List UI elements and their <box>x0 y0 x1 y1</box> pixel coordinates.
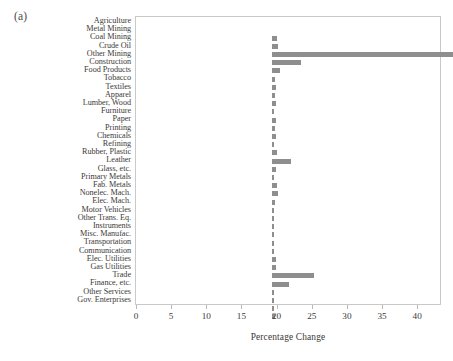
bar <box>272 232 274 237</box>
bars-layer <box>272 34 453 321</box>
x-axis: 0510152025303540 <box>135 305 441 306</box>
bar <box>272 257 276 262</box>
bar <box>272 52 453 57</box>
x-tick <box>347 305 348 309</box>
bar <box>272 68 280 73</box>
bar <box>272 224 274 229</box>
bar <box>272 273 314 278</box>
bar <box>272 298 274 303</box>
x-tick-label: 5 <box>169 311 174 321</box>
bar <box>272 101 276 106</box>
bar <box>272 142 274 147</box>
bar <box>272 159 291 164</box>
bar <box>272 44 278 49</box>
plot-frame <box>135 16 441 305</box>
x-tick <box>417 305 418 309</box>
bar <box>272 167 276 172</box>
bar <box>272 200 275 205</box>
x-axis-title: Percentage Change <box>135 332 441 342</box>
x-tick <box>136 305 137 309</box>
x-tick-label: 20 <box>272 311 281 321</box>
bar <box>272 150 277 155</box>
bar <box>272 290 274 295</box>
bar <box>272 126 275 131</box>
figure-panel-a: (a) AgricultureMetal MiningCoal MiningCr… <box>0 0 453 361</box>
bar <box>272 118 276 123</box>
x-tick <box>171 305 172 309</box>
bar <box>272 241 274 246</box>
x-tick-label: 30 <box>342 311 351 321</box>
bar <box>272 85 276 90</box>
bar <box>272 216 274 221</box>
x-tick <box>277 305 278 309</box>
bar <box>272 208 274 213</box>
bar <box>272 60 301 65</box>
x-tick <box>241 305 242 309</box>
bar <box>272 282 289 287</box>
bar <box>272 175 274 180</box>
bar <box>272 183 277 188</box>
bar <box>272 249 274 254</box>
x-tick <box>312 305 313 309</box>
bar <box>272 265 276 270</box>
x-tick <box>382 305 383 309</box>
x-tick-label: 40 <box>413 311 422 321</box>
x-tick-label: 0 <box>134 311 139 321</box>
bar <box>272 134 276 139</box>
x-tick-label: 35 <box>377 311 386 321</box>
x-tick-label: 25 <box>307 311 316 321</box>
bar <box>272 191 278 196</box>
x-tick <box>206 305 207 309</box>
bar <box>272 109 274 114</box>
bar <box>272 93 275 98</box>
bar <box>272 77 275 82</box>
category-axis-labels: AgricultureMetal MiningCoal MiningCrude … <box>34 12 131 305</box>
x-tick-label: 10 <box>202 311 211 321</box>
x-tick-label: 15 <box>237 311 246 321</box>
panel-label: (a) <box>14 10 27 22</box>
bar <box>272 36 277 41</box>
category-label: Gov. Enterprises <box>34 296 131 304</box>
